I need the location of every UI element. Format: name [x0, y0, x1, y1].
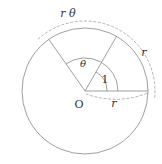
arc-length-dashed-arc	[38, 21, 140, 48]
origin-label: O	[74, 98, 83, 111]
geometry-diagram: r θ r θ 1 O r	[0, 0, 162, 164]
radius-bottom-dashed-arc	[86, 93, 148, 99]
unit-length-label: 1	[102, 73, 109, 86]
diagram-canvas: r θ r θ 1 O r	[0, 0, 162, 164]
angle-theta-label: θ	[80, 58, 86, 69]
radius-right-label: r	[141, 46, 147, 59]
radius-bottom-label: r	[111, 97, 117, 110]
arc-length-label: r θ	[60, 7, 76, 20]
